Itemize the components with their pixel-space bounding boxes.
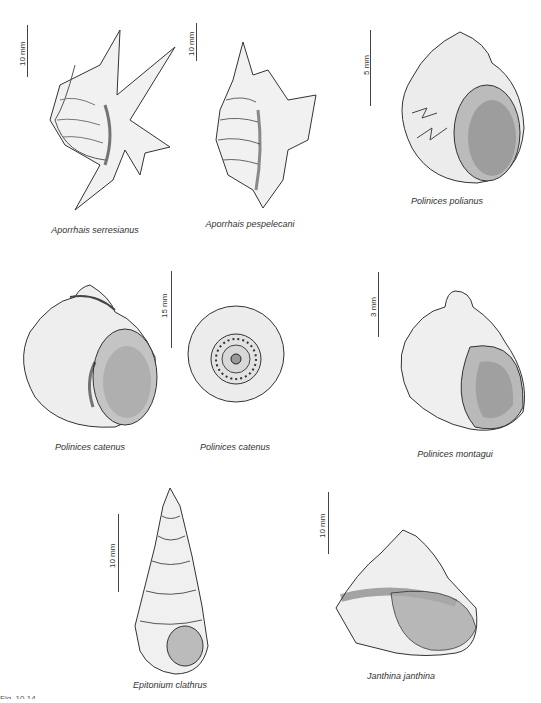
scale-label: 10 mm [108,544,117,568]
shell-illustration-aporrhais-serresianus [45,25,185,215]
scale-bar [378,272,379,337]
scale-bar [196,23,197,61]
scale-bar [171,271,172,348]
scale-bar [328,492,329,554]
specimen-caption: Aporrhais pespelecani [205,219,294,229]
shell-illustration-polinices-polianus [392,28,527,188]
scale-label: 10 mm [18,42,27,66]
specimen-caption: Epitonium clathrus [133,680,207,690]
scale-label: 5 mm [362,55,371,75]
specimen-caption: Aporrhais serresianus [51,225,139,235]
specimen-caption: Janthina janthina [367,671,435,681]
scale-label: 10 mm [187,32,196,56]
scale-label: 3 mm [369,297,378,317]
shell-illustration-polinices-montagui [395,287,530,437]
shell-illustration-epitonium-clathrus [130,486,210,676]
shell-illustration-janthina-janthina [336,528,486,658]
specimen-caption: Polinices polianus [411,196,483,206]
shell-illustration-polinices-catenus-apical [188,304,288,404]
specimen-caption: Polinices catenus [55,442,125,452]
scale-bar [27,25,28,77]
shell-illustration-aporrhais-pespelecani [208,40,318,210]
shell-illustration-polinices-catenus-apertural [15,282,160,432]
scale-bar [118,514,119,592]
figure-label: Fig. 10.14 [0,693,36,699]
specimen-caption: Polinices catenus [200,442,270,452]
scale-label: 15 mm [160,294,169,318]
scale-label: 10 mm [318,514,327,538]
specimen-caption: Polinices montagui [417,449,493,459]
